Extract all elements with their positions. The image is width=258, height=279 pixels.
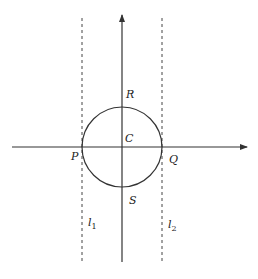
label-l1-sub: 1 (92, 222, 97, 231)
label-P: P (71, 151, 78, 162)
label-l2-sub: 2 (172, 224, 177, 233)
label-l1: l1 (88, 217, 97, 231)
label-C: C (125, 133, 133, 144)
diagram-canvas: R C P Q S l1 l2 (0, 0, 258, 279)
label-R: R (126, 89, 134, 100)
label-S: S (129, 195, 137, 206)
label-l2: l2 (168, 219, 177, 233)
label-Q: Q (169, 154, 178, 165)
